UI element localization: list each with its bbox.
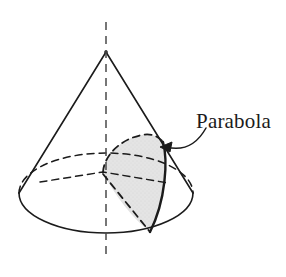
- cone-left-slant: [19, 52, 106, 193]
- cone-base-ellipse-front: [19, 193, 193, 233]
- figure-root: Parabola: [0, 0, 286, 277]
- cone-diagram-svg: [0, 0, 286, 277]
- parabola-label: Parabola: [196, 108, 271, 134]
